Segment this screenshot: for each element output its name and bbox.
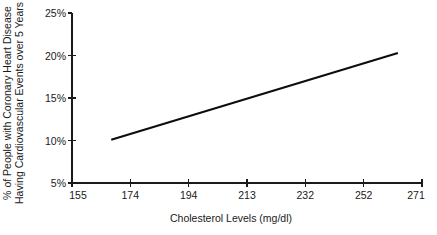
x-axis-title: Cholesterol Levels (mg/dl) — [170, 212, 292, 224]
x-axis-tick-labels: 155 174 194 213 232 252 271 — [69, 189, 425, 201]
x-tick-label: 174 — [122, 189, 140, 201]
data-line-risk — [111, 53, 398, 140]
y-tick-label: 25% — [45, 7, 66, 19]
x-tick-label: 232 — [297, 189, 315, 201]
y-tick-label: 5% — [51, 177, 66, 189]
x-tick-label: 155 — [69, 189, 87, 201]
y-tick-label: 15% — [45, 92, 66, 104]
y-tick-label: 20% — [45, 50, 66, 62]
x-tick-label: 213 — [238, 189, 256, 201]
x-tick-label: 252 — [355, 189, 373, 201]
y-axis-tick-labels: 25% 20% 15% 10% 5% — [45, 7, 66, 189]
chart-figure: 25% 20% 15% 10% 5% 155 — [0, 0, 437, 235]
x-tick-label: 194 — [180, 189, 198, 201]
line-chart: 25% 20% 15% 10% 5% 155 — [0, 0, 437, 235]
y-axis-title-line2: Having Cardiovascular Events over 5 Year… — [13, 2, 25, 204]
y-axis-title-line1: % of People with Coronary Heart Disease — [1, 6, 13, 200]
y-axis-title: % of People with Coronary Heart Disease … — [1, 2, 25, 204]
x-tick-label: 271 — [407, 189, 425, 201]
y-tick-label: 10% — [45, 135, 66, 147]
